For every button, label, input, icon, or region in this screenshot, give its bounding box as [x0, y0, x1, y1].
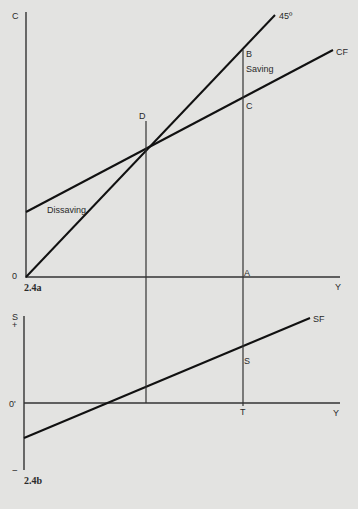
point-d-label: D [139, 111, 146, 121]
line-45-label: 45º [279, 11, 293, 21]
figure-a: C 45º CF B Saving C D Dissaving 0 A Y 2.… [12, 11, 348, 300]
sf-label: SF [313, 314, 325, 324]
origin-label-b: 0' [9, 399, 16, 409]
consumption-function-line [26, 50, 333, 212]
y-axis-label-b: Y [333, 408, 339, 418]
y-axis-label-a: Y [335, 282, 341, 292]
saving-function-line [24, 318, 310, 438]
cf-label: CF [336, 47, 348, 57]
figure-b: S + SF S 0' T Y − 2.4b [9, 290, 340, 486]
c-axis-label: C [12, 11, 19, 21]
point-t-label: T [240, 407, 246, 417]
caption-2-4a: 2.4a [24, 282, 42, 293]
minus-sign: − [12, 465, 18, 476]
point-b-label: B [246, 49, 252, 59]
point-c-label: C [246, 101, 253, 111]
saving-label: Saving [246, 64, 274, 74]
consumption-saving-diagram: C 45º CF B Saving C D Dissaving 0 A Y 2.… [0, 0, 358, 509]
plus-sign: + [12, 320, 17, 330]
dissaving-label: Dissaving [47, 205, 86, 215]
caption-2-4b: 2.4b [24, 475, 43, 486]
point-s-label: S [244, 356, 250, 366]
point-a-label: A [244, 268, 250, 278]
origin-label-a: 0 [12, 271, 17, 281]
